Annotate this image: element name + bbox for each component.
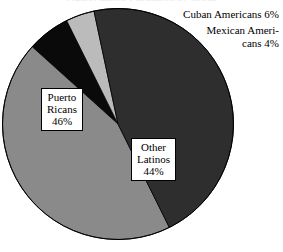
slice-label-other-latinos-value: 44% <box>137 165 170 177</box>
pie-chart-figure: Figure: Latino Population by Group Puert… <box>0 0 283 252</box>
callout-label-cuban-americans: Cuban Americans 6% <box>183 8 279 21</box>
slice-label-other-latinos-line1: Other <box>137 141 170 153</box>
callout-label-mexican-americans: Mexican Ameri- cans 4% <box>207 24 279 50</box>
slice-label-puerto-ricans-value: 46% <box>47 115 77 127</box>
slice-label-puerto-ricans-line2: Ricans <box>47 103 77 115</box>
pie-slice-group <box>3 8 234 239</box>
callout-label-mexican-americans-line1: Mexican Ameri- <box>207 24 279 37</box>
slice-label-other-latinos-line2: Latinos <box>137 153 170 165</box>
slice-label-puerto-ricans-line1: Puerto <box>47 91 77 103</box>
slice-label-puerto-ricans: Puerto Ricans 46% <box>41 88 83 131</box>
callout-label-mexican-americans-line2: cans 4% <box>207 37 279 50</box>
slice-label-other-latinos: Other Latinos 44% <box>131 138 176 181</box>
